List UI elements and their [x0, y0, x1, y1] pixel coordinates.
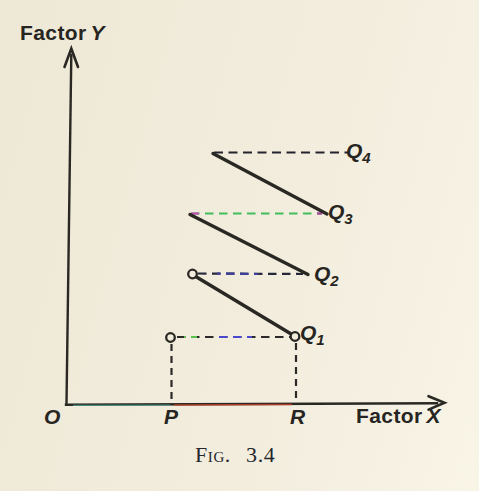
- dash-q2: [198, 274, 303, 275]
- y-axis-label-word: Factor: [20, 21, 87, 44]
- figure-3-4: FactorY FactorX O P R Q1 Q2 Q3 Q4 Fig. 3…: [0, 0, 479, 491]
- point-label-q4-subscript: 4: [362, 149, 370, 166]
- y-axis-label: FactorY: [20, 22, 105, 43]
- point-q2-start: [188, 270, 197, 279]
- point-label-q2: Q2: [314, 263, 339, 288]
- point-q1: [291, 332, 300, 341]
- tick-label-r: R: [290, 406, 305, 427]
- point-label-q2-subscript: 2: [330, 272, 338, 289]
- point-label-q3-main: Q: [328, 200, 344, 223]
- segment-to-q3: [213, 154, 327, 215]
- point-label-q1-subscript: 1: [316, 331, 324, 348]
- point-label-q3: Q3: [328, 201, 353, 226]
- segment-to-q1: [194, 276, 295, 337]
- dash-q2-accent-1: [217, 274, 258, 275]
- point-label-q4: Q4: [346, 140, 371, 165]
- figure-caption: Fig. 3.4: [195, 444, 275, 466]
- y-axis-label-variable: Y: [91, 21, 105, 44]
- origin-label: O: [44, 406, 60, 427]
- x-axis-tint-red: [174, 405, 292, 406]
- point-label-q2-main: Q: [314, 262, 330, 285]
- segment-to-q2: [190, 215, 308, 275]
- point-label-q3-subscript: 3: [344, 210, 352, 227]
- point-label-q1-main: Q: [300, 321, 316, 344]
- point-label-q4-main: Q: [346, 139, 362, 162]
- y-axis: [67, 55, 72, 404]
- x-axis-label-word: Factor: [356, 404, 423, 427]
- x-axis-label-variable: X: [427, 404, 441, 427]
- x-axis-label: FactorX: [356, 405, 441, 426]
- point-above-p: [166, 333, 175, 342]
- tick-label-p: P: [164, 406, 178, 427]
- point-label-q1: Q1: [300, 322, 325, 347]
